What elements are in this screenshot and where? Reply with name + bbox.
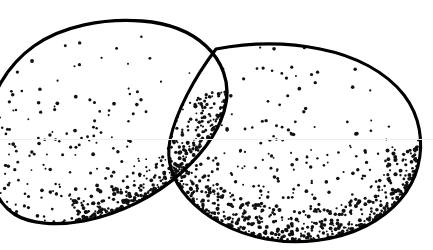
paper-background [0,0,433,250]
artboard: Two Overlapping Oval Forms pen-and-ink s… [0,0,433,250]
ink-drawing [0,0,433,250]
